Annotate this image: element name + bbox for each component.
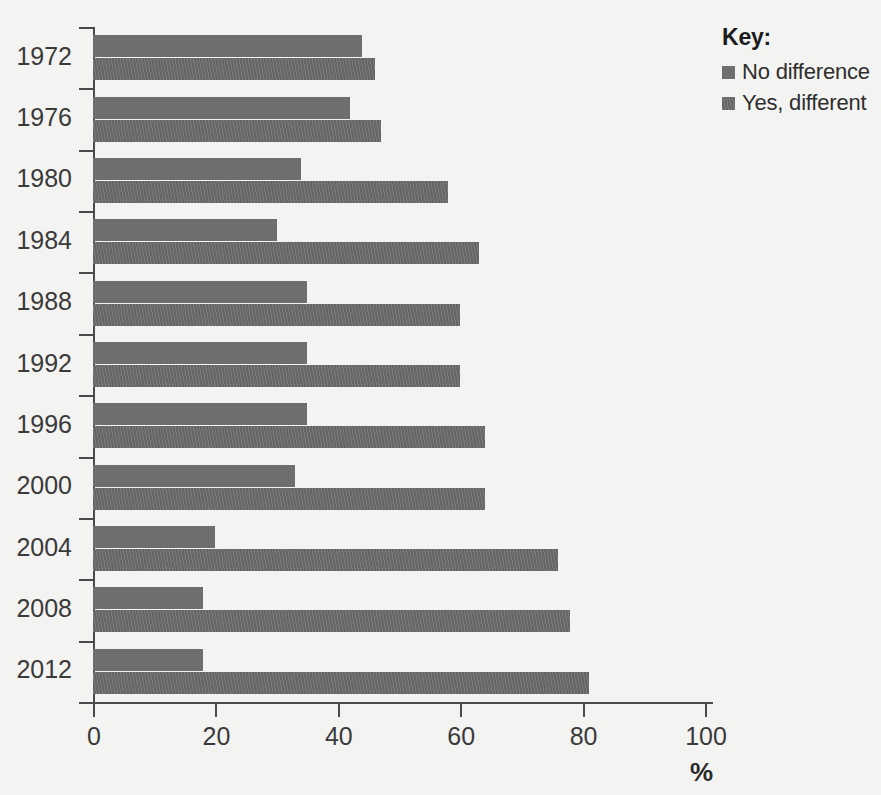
chart-figure: 1972197619801984198819921996200020042008… bbox=[0, 0, 881, 795]
x-axis-tick bbox=[215, 704, 217, 717]
legend-item-no-difference[interactable]: No difference bbox=[722, 59, 877, 85]
bar-1984-yes-different bbox=[93, 242, 479, 264]
y-axis-tick-label: 1988 bbox=[16, 287, 72, 316]
y-axis-labels: 1972197619801984198819921996200020042008… bbox=[0, 0, 72, 795]
bar-2004-no-difference bbox=[93, 526, 215, 548]
y-axis-tick-label: 1976 bbox=[16, 103, 72, 132]
bar-1980-yes-different bbox=[93, 181, 448, 203]
bar-1976-no-difference bbox=[93, 97, 350, 119]
x-axis-tick bbox=[705, 704, 707, 717]
bar-1988-yes-different bbox=[93, 304, 460, 326]
bar-1988-no-difference bbox=[93, 281, 307, 303]
x-axis-tick bbox=[338, 704, 340, 717]
bar-1996-yes-different bbox=[93, 426, 485, 448]
x-axis-tick bbox=[460, 704, 462, 717]
y-axis-tick bbox=[79, 702, 93, 704]
y-axis-tick bbox=[79, 88, 93, 90]
y-axis-tick bbox=[79, 518, 93, 520]
bar-2004-yes-different bbox=[93, 549, 558, 571]
y-axis-tick-label: 1996 bbox=[16, 410, 72, 439]
bar-2012-yes-different bbox=[93, 672, 589, 694]
bar-2008-yes-different bbox=[93, 610, 570, 632]
y-axis-tick-label: 2008 bbox=[16, 594, 72, 623]
legend-item-yes-different[interactable]: Yes, different bbox=[722, 90, 877, 116]
bar-1984-no-difference bbox=[93, 219, 277, 241]
bar-1980-no-difference bbox=[93, 158, 301, 180]
y-axis-tick-label: 1980 bbox=[16, 164, 72, 193]
x-axis-tick-label: 20 bbox=[202, 722, 230, 751]
y-axis-tick bbox=[79, 334, 93, 336]
bar-1976-yes-different bbox=[93, 120, 381, 142]
y-axis-tick-label: 1992 bbox=[16, 349, 72, 378]
y-axis-tick-label: 1972 bbox=[16, 42, 72, 71]
y-axis-tick bbox=[79, 641, 93, 643]
x-axis-tick-label: 100 bbox=[685, 722, 727, 751]
x-axis-title: % bbox=[690, 757, 713, 788]
x-axis-line bbox=[93, 702, 713, 704]
x-axis-tick-label: 60 bbox=[447, 722, 475, 751]
bar-1972-yes-different bbox=[93, 58, 375, 80]
legend-title: Key: bbox=[722, 24, 877, 51]
bar-1996-no-difference bbox=[93, 403, 307, 425]
x-axis-tick bbox=[583, 704, 585, 717]
legend-swatch-icon bbox=[722, 66, 735, 79]
y-axis-tick-label: 2004 bbox=[16, 533, 72, 562]
bar-2000-yes-different bbox=[93, 488, 485, 510]
bar-2008-no-difference bbox=[93, 587, 203, 609]
y-axis-tick bbox=[79, 579, 93, 581]
x-axis-tick-label: 0 bbox=[87, 722, 101, 751]
y-axis-tick bbox=[79, 395, 93, 397]
legend: Key: No difference Yes, different bbox=[722, 24, 877, 121]
x-axis-tick-label: 80 bbox=[570, 722, 598, 751]
bar-2012-no-difference bbox=[93, 649, 203, 671]
x-axis-tick bbox=[93, 704, 95, 717]
legend-swatch-icon bbox=[722, 97, 735, 110]
legend-item-label: No difference bbox=[742, 59, 870, 85]
plot-area bbox=[93, 27, 705, 702]
bar-1972-no-difference bbox=[93, 35, 362, 57]
y-axis-tick-label: 2000 bbox=[16, 471, 72, 500]
y-axis-tick bbox=[79, 457, 93, 459]
bar-1992-yes-different bbox=[93, 365, 460, 387]
bar-1992-no-difference bbox=[93, 342, 307, 364]
y-axis-tick bbox=[79, 150, 93, 152]
x-axis-tick-label: 40 bbox=[325, 722, 353, 751]
y-axis-tick bbox=[79, 272, 93, 274]
y-axis-tick-label: 1984 bbox=[16, 226, 72, 255]
legend-item-label: Yes, different bbox=[742, 90, 866, 116]
y-axis-tick bbox=[79, 211, 93, 213]
y-axis-tick bbox=[79, 27, 93, 29]
bar-2000-no-difference bbox=[93, 465, 295, 487]
y-axis-tick-label: 2012 bbox=[16, 655, 72, 684]
